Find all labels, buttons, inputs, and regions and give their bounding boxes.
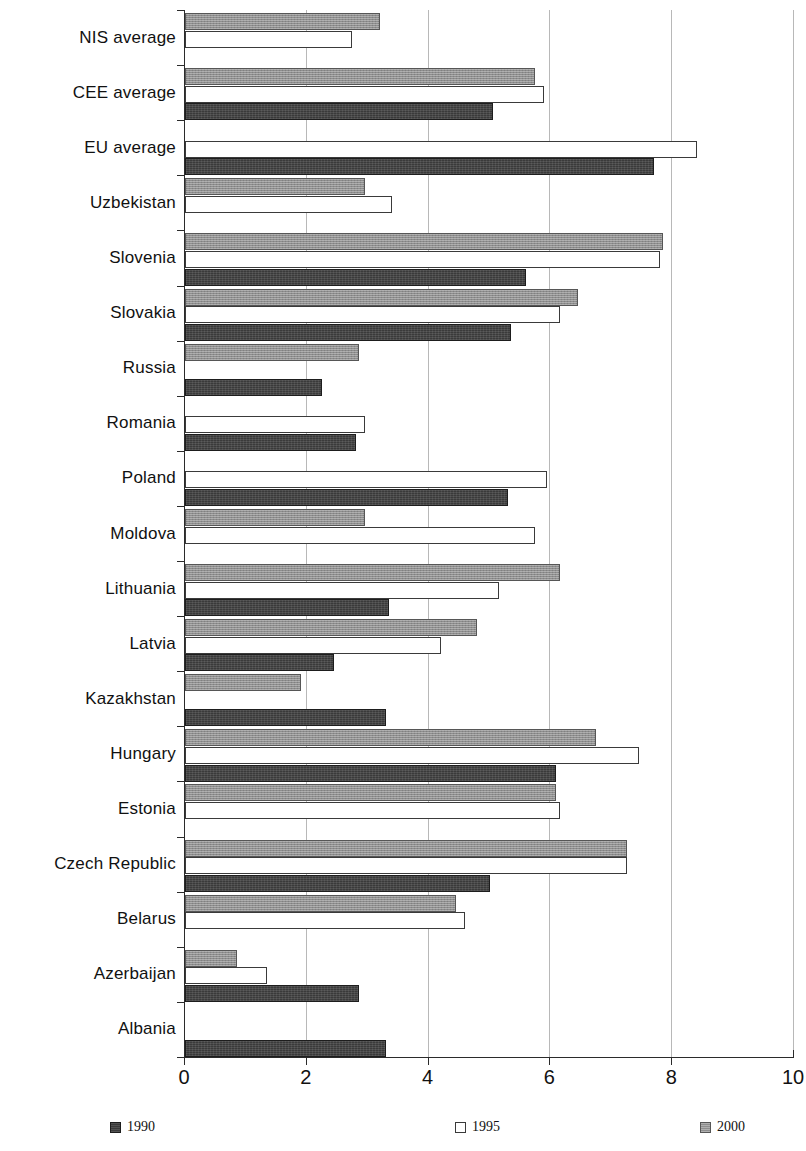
bar-2000: [185, 729, 596, 746]
category-label: Romania: [4, 413, 176, 433]
bar-group: [185, 396, 793, 451]
bar-1995: [185, 31, 352, 48]
bar-group: [185, 726, 793, 781]
legend-item-2000: 2000: [700, 1120, 745, 1134]
category-label: Hungary: [4, 744, 176, 764]
category-tick: [177, 341, 184, 342]
bar-1995: [185, 912, 465, 929]
category-tick: [177, 726, 184, 727]
bar-1990: [185, 103, 493, 120]
category-label: Belarus: [4, 909, 176, 929]
value-tick-label: 2: [300, 1065, 311, 1089]
value-tick: [793, 1050, 794, 1058]
bar-1995: [185, 802, 560, 819]
bar-2000: [185, 344, 359, 361]
bar-group: [185, 10, 793, 65]
value-tick: [549, 1057, 550, 1065]
category-label: Czech Republic: [4, 854, 176, 874]
bar-2000: [185, 619, 477, 636]
bar-1990: [185, 158, 654, 175]
category-tick: [177, 671, 184, 672]
bar-group: [185, 781, 793, 836]
bar-1990: [185, 379, 322, 396]
bar-1990: [185, 765, 556, 782]
bar-1990: [185, 489, 508, 506]
legend-label: 1990: [127, 1120, 155, 1134]
bar-1995: [185, 637, 441, 654]
bar-group: [185, 671, 793, 726]
bar-2000: [185, 840, 627, 857]
category-label: Kazakhstan: [4, 689, 176, 709]
bar-2000: [185, 68, 535, 85]
bar-1990: [185, 875, 490, 892]
bar-2000: [185, 289, 578, 306]
category-label: NIS average: [4, 28, 176, 48]
legend-swatch-icon: [110, 1122, 121, 1133]
bar-1995: [185, 306, 560, 323]
value-tick-label: 10: [782, 1065, 804, 1089]
category-label: Slovenia: [4, 248, 176, 268]
bar-2000: [185, 178, 365, 195]
category-label: Lithuania: [4, 579, 176, 599]
category-tick: [177, 10, 184, 11]
bar-1995: [185, 86, 544, 103]
category-tick: [177, 506, 184, 507]
category-tick: [177, 175, 184, 176]
bar-1990: [185, 269, 526, 286]
bar-1990: [185, 1040, 386, 1057]
category-label: Latvia: [4, 634, 176, 654]
bar-2000: [185, 509, 365, 526]
category-label: Slovakia: [4, 303, 176, 323]
value-tick-label: 6: [544, 1065, 555, 1089]
legend-label: 2000: [717, 1120, 745, 1134]
legend-swatch-icon: [455, 1122, 466, 1133]
bar-group: [185, 1002, 793, 1057]
bar-1995: [185, 141, 697, 158]
category-tick: [177, 451, 184, 452]
bar-1995: [185, 251, 660, 268]
category-label: Uzbekistan: [4, 193, 176, 213]
category-label: Poland: [4, 468, 176, 488]
value-tick: [428, 1057, 429, 1065]
category-tick: [177, 1057, 184, 1058]
legend-swatch-icon: [700, 1122, 711, 1133]
category-tick: [177, 120, 184, 121]
category-label: Albania: [4, 1019, 176, 1039]
value-tick-label: 4: [422, 1065, 433, 1089]
category-tick: [177, 230, 184, 231]
category-axis-labels: NIS averageCEE averageEU averageUzbekist…: [0, 10, 176, 1057]
bar-1990: [185, 709, 386, 726]
bar-1995: [185, 416, 365, 433]
category-axis-line: [184, 1057, 794, 1058]
category-tick: [177, 286, 184, 287]
bar-2000: [185, 13, 380, 30]
category-tick: [177, 1002, 184, 1003]
bar-2000: [185, 950, 237, 967]
bar-1990: [185, 985, 359, 1002]
category-tick: [177, 837, 184, 838]
bar-group: [185, 175, 793, 230]
bar-group: [185, 120, 793, 175]
bar-1995: [185, 857, 627, 874]
category-tick: [177, 616, 184, 617]
category-label: Estonia: [4, 799, 176, 819]
legend-item-1995: 1995: [455, 1120, 500, 1134]
category-label: CEE average: [4, 83, 176, 103]
category-tick: [177, 947, 184, 948]
bar-group: [185, 561, 793, 616]
legend-label: 1995: [472, 1120, 500, 1134]
category-label: Russia: [4, 358, 176, 378]
bar-1995: [185, 527, 535, 544]
bar-group: [185, 451, 793, 506]
chart-legend: 199019952000: [0, 1120, 806, 1144]
bar-1990: [185, 324, 511, 341]
bar-group: [185, 506, 793, 561]
category-tick: [177, 781, 184, 782]
bar-1995: [185, 196, 392, 213]
bar-group: [185, 837, 793, 892]
value-tick: [184, 1057, 185, 1065]
bar-1990: [185, 599, 389, 616]
value-tick-label: 8: [666, 1065, 677, 1089]
category-tick: [177, 396, 184, 397]
category-tick: [177, 65, 184, 66]
